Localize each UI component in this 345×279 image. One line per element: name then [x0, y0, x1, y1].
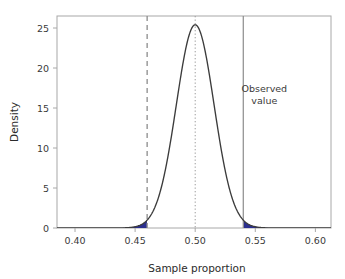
observed-value-label-line1: Observed: [241, 83, 287, 94]
y-tick-label: 25: [37, 23, 49, 34]
chart-background: [0, 0, 345, 279]
y-tick-label: 0: [43, 223, 49, 234]
x-axis-title: Sample proportion: [148, 262, 245, 274]
density-plot-figure: 0.400.450.500.550.60 0510152025 Observed…: [0, 0, 345, 279]
x-tick-label: 0.40: [64, 235, 85, 246]
y-tick-label: 20: [37, 63, 49, 74]
x-tick-label: 0.55: [245, 235, 266, 246]
x-tick-label: 0.45: [125, 235, 146, 246]
x-tick-label: 0.60: [305, 235, 326, 246]
chart-canvas: 0.400.450.500.550.60 0510152025 Observed…: [0, 0, 345, 279]
y-tick-label: 10: [37, 143, 49, 154]
observed-value-label-line2: value: [251, 95, 277, 106]
y-tick-label: 5: [43, 183, 49, 194]
x-tick-label: 0.50: [185, 235, 206, 246]
y-axis-title: Density: [8, 102, 20, 142]
y-tick-label: 15: [37, 103, 49, 114]
